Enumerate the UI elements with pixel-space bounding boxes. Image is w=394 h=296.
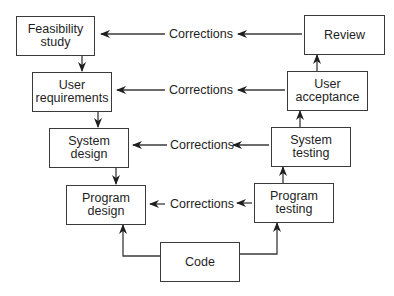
stage-program-design: Program design <box>66 185 146 225</box>
stage-system-design: System design <box>49 128 129 168</box>
stage-code: Code <box>160 242 240 282</box>
stage-system-testing: System testing <box>271 127 351 167</box>
corrections-label-2: Corrections <box>169 83 233 97</box>
stage-user-acceptance: User acceptance <box>287 71 368 111</box>
stage-program-testing: Program testing <box>254 183 334 223</box>
corrections-label-3: Corrections <box>170 138 234 152</box>
stage-user-requirements: User requirements <box>32 72 112 112</box>
stage-review: Review <box>304 15 385 55</box>
corrections-label-1: Corrections <box>169 27 233 41</box>
arrow-code-to-program-design <box>123 225 160 256</box>
corrections-label-4: Corrections <box>170 197 234 211</box>
stage-feasibility-study: Feasibility study <box>16 16 95 56</box>
arrow-code-to-program-testing <box>239 223 277 254</box>
